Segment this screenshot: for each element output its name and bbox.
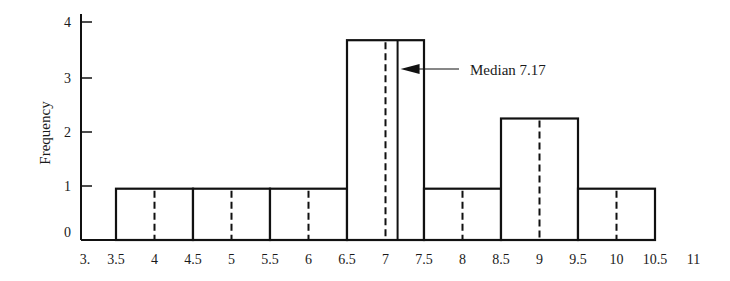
x-tick-label: 10 — [610, 252, 624, 267]
x-tick-label: 11 — [687, 252, 700, 267]
x-tick-label: 9.5 — [569, 252, 587, 267]
x-tick-label: 7 — [382, 252, 389, 267]
y-tick-label: 0 — [64, 225, 71, 240]
bars — [116, 40, 655, 240]
y-tick-label: 3 — [64, 71, 71, 86]
x-tick-label: 6 — [305, 252, 312, 267]
x-tick-label: 5.5 — [261, 252, 279, 267]
x-tick-label: 3.5 — [107, 252, 125, 267]
x-tick-label: 3. — [80, 252, 91, 267]
y-tick-label: 2 — [64, 125, 71, 140]
y-axis-title: Frequency — [37, 101, 53, 165]
y-tick-label: 4 — [64, 15, 71, 30]
x-tick-label: 4 — [151, 252, 158, 267]
x-tick-label: 7.5 — [415, 252, 433, 267]
x-tick-label: 8.5 — [492, 252, 510, 267]
x-tick-label: 5 — [228, 252, 235, 267]
x-tick-labels: 3.3.544.555.566.577.588.599.51010.511 — [80, 252, 700, 267]
x-tick-label: 6.5 — [338, 252, 356, 267]
x-tick-label: 10.5 — [643, 252, 668, 267]
x-tick-label: 4.5 — [184, 252, 202, 267]
y-tick-label: 1 — [64, 179, 71, 194]
histogram-chart: 3.3.544.555.566.577.588.599.51010.511 01… — [0, 0, 730, 281]
y-tick-labels: 01234 — [64, 15, 71, 240]
x-tick-label: 9 — [536, 252, 543, 267]
median-label: Median 7.17 — [470, 62, 546, 78]
x-tick-label: 8 — [459, 252, 466, 267]
